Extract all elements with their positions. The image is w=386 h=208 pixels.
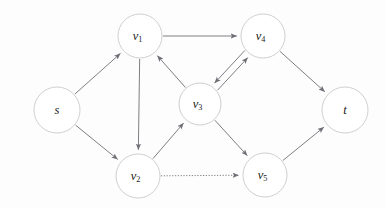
- graph-edge: [218, 58, 248, 91]
- graph-edge: [157, 56, 185, 88]
- node-label-t: t: [343, 103, 347, 117]
- node-label-subscript-v5: 5: [263, 174, 267, 183]
- graph-edge: [215, 120, 247, 155]
- graph-edge: [138, 59, 139, 150]
- graph-edge: [161, 175, 239, 176]
- graph-node-v3[interactable]: v3: [179, 83, 221, 125]
- graph-node-v4[interactable]: v4: [241, 14, 285, 58]
- node-label-s: s: [55, 103, 60, 117]
- graph-node-v1[interactable]: v1: [118, 14, 162, 58]
- graph-node-t[interactable]: t: [322, 87, 368, 133]
- graph-edge: [153, 123, 184, 158]
- graph-edge: [76, 125, 118, 159]
- graph-edge: [215, 50, 245, 83]
- nodes-layer: sv1v2v3v4v5t: [34, 14, 368, 198]
- graph-edge: [283, 127, 324, 160]
- graph-canvas: sv1v2v3v4v5t: [0, 0, 386, 208]
- directed-graph-figure: sv1v2v3v4v5t: [0, 0, 386, 208]
- graph-node-v5[interactable]: v5: [243, 153, 287, 197]
- node-label-subscript-v2: 2: [136, 175, 140, 184]
- graph-edge: [75, 53, 121, 94]
- graph-edge: [280, 51, 325, 91]
- node-label-subscript-v3: 3: [198, 103, 202, 112]
- graph-node-v2[interactable]: v2: [116, 154, 160, 198]
- node-label-subscript-v1: 1: [138, 35, 142, 44]
- node-label-subscript-v4: 4: [261, 35, 265, 44]
- graph-node-s[interactable]: s: [34, 87, 80, 133]
